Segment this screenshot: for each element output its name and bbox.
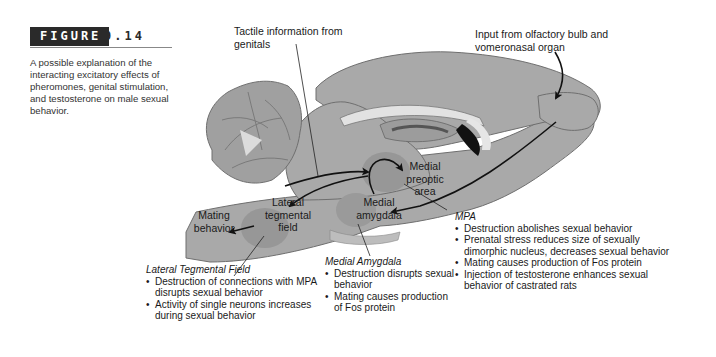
label-mating-behavior: Mating behavior	[190, 209, 238, 234]
note-mpa-item: Prenatal stress reduces size of sexually…	[455, 234, 680, 257]
note-mpa-item: Mating causes production of Fos protein	[455, 257, 680, 269]
note-mpa-item: Injection of testosterone enhances sexua…	[455, 269, 680, 292]
note-mpa-item: Destruction abolishes sexual behavior	[455, 223, 680, 235]
note-amygdala-title: Medial Amygdala	[325, 256, 455, 268]
note-mpa-title: MPA	[455, 211, 680, 223]
label-medial-amygdala: Medial amygdala	[354, 196, 404, 221]
note-ltf-item: Destruction of connections with MPA disr…	[146, 276, 321, 299]
note-amygdala-item: Mating causes production of Fos protein	[325, 291, 455, 314]
note-ltf-title: Lateral Tegmental Field	[146, 264, 321, 276]
note-amygdala-item: Destruction disrupts sexual behavior	[325, 268, 455, 291]
label-lateral-tegmental-field: Lateral tegmental field	[262, 196, 314, 234]
note-amygdala: Medial Amygdala Destruction disrupts sex…	[325, 256, 455, 314]
label-olfactory: Input from olfactory bulb and vomeronasa…	[475, 28, 610, 53]
label-medial-preoptic-area: Medial preoptic area	[400, 160, 450, 198]
note-ltf: Lateral Tegmental Field Destruction of c…	[146, 264, 321, 322]
label-tactile: Tactile information from genitals	[234, 25, 344, 50]
note-mpa: MPA Destruction abolishes sexual behavio…	[455, 211, 680, 292]
note-ltf-item: Activity of single neurons increases dur…	[146, 299, 321, 322]
